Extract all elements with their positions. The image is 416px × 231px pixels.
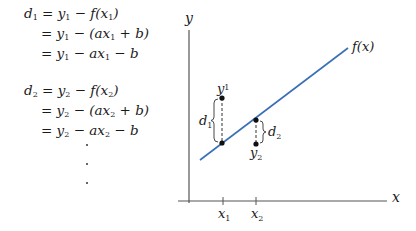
point-label-y2: y2 <box>249 145 262 162</box>
data-point-y1 <box>219 95 224 100</box>
tick-label-x2: x2 <box>251 206 263 223</box>
tick-label-x1: x1 <box>218 206 230 223</box>
x-axis-label: x <box>392 189 400 205</box>
fitted-point-x1 <box>219 140 224 145</box>
regression-plot: y x x1 x2 f(x) y1 d1 y2 d2 <box>0 0 416 231</box>
distance-label-d2: d2 <box>268 124 281 141</box>
fitted-point-x2 <box>253 117 258 122</box>
distance-label-d1: d1 <box>199 113 212 130</box>
y-axis-label: y <box>184 10 194 26</box>
regression-line-label: f(x) <box>351 39 374 54</box>
point-label-y1: y1 <box>216 81 229 96</box>
brace-d2 <box>260 121 266 143</box>
